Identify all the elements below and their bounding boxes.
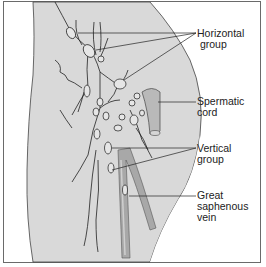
- label-great-saphenous-vein: Great saphenous vein: [197, 190, 248, 223]
- label-horizontal-group: Horizontal group: [197, 28, 244, 50]
- spermatic-cord-end: [150, 131, 160, 136]
- label-vertical-group: Vertical group: [197, 143, 231, 165]
- label-spermatic-cord: Spermatic cord: [197, 96, 244, 118]
